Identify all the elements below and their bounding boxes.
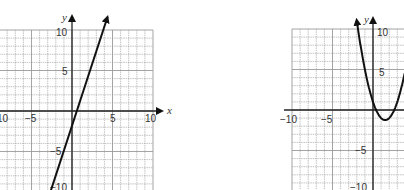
right-tick-x-neg10: −10 [280,114,297,125]
left-tick-y-10: 10 [56,27,68,38]
left-tick-y-5: 5 [62,66,68,77]
left-y-axis-label: y [61,11,67,23]
right-tick-y-neg5: −5 [355,145,367,156]
right-tick-y-5: 5 [379,67,385,78]
right-tick-x-neg5: −5 [321,114,333,125]
right-tick-y-10: 10 [377,27,389,38]
right-tick-y-neg10: −10 [350,182,367,190]
left-tick-x-neg10: 10 [0,113,9,124]
left-tick-x-10: 10 [145,113,157,124]
graphs-canvas: x y 10 −5 5 10 10 5 −5 −10 y −10 −5 10 5… [0,0,404,190]
left-tick-y-neg5: −5 [50,146,62,157]
right-y-axis-label: y [363,13,369,25]
right-graph-axes: y −10 −5 10 5 −5 −10 [280,13,404,190]
left-line-curve [51,17,108,190]
left-tick-x-5: 5 [110,113,116,124]
left-tick-x-neg5: −5 [25,113,37,124]
left-x-axis-label: x [166,104,172,116]
